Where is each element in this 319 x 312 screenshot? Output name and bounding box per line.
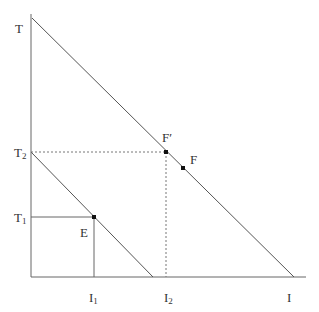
diagram-canvas	[0, 0, 319, 312]
outer-budget-line	[32, 18, 294, 277]
label-i2: I2	[164, 291, 173, 306]
label-i1-sub: 1	[93, 296, 98, 306]
label-e: E	[80, 226, 88, 239]
label-t2-base: T	[14, 145, 22, 160]
label-f-prime: F′	[162, 131, 172, 144]
label-i1: I1	[89, 291, 98, 306]
label-t2: T2	[14, 146, 26, 161]
label-t1: T1	[14, 211, 26, 226]
label-t2-sub: 2	[22, 151, 27, 161]
label-t1-base: T	[14, 210, 22, 225]
point-f	[181, 166, 185, 170]
label-f: F	[190, 153, 197, 166]
point-e	[92, 215, 96, 219]
label-t: T	[15, 22, 23, 35]
label-i: I	[287, 291, 291, 304]
point-f-prime	[164, 150, 168, 154]
label-t1-sub: 1	[22, 216, 27, 226]
label-i2-sub: 2	[168, 296, 173, 306]
inner-budget-line	[31, 152, 153, 277]
